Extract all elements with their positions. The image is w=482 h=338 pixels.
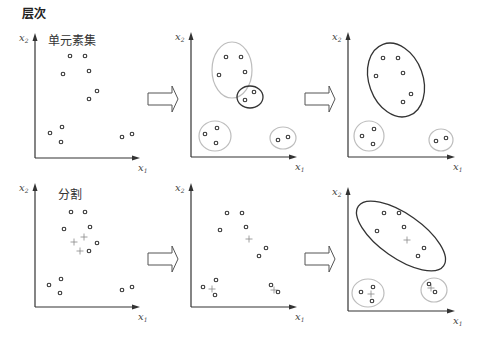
data-point	[252, 90, 256, 94]
y-axis-label: x2	[175, 182, 185, 194]
x-axis-arrow-icon	[132, 156, 140, 161]
scatter-panel: x2x1	[332, 31, 462, 173]
data-point	[401, 100, 405, 104]
y-axis-label-sub: 2	[337, 191, 342, 198]
data-point	[427, 282, 431, 286]
data-point	[61, 72, 65, 76]
data-point	[240, 211, 244, 215]
centroid-plus-icon	[81, 234, 88, 241]
data-point	[434, 139, 438, 143]
block-arrow-icon	[148, 86, 178, 112]
x-axis-label-sub: 1	[144, 167, 148, 174]
diagram-title: 层次	[22, 6, 46, 21]
data-point	[276, 138, 280, 142]
data-point	[88, 225, 92, 229]
y-axis-arrow-icon	[189, 32, 194, 40]
data-point	[130, 132, 134, 136]
scatter-panel: x2x1	[19, 182, 147, 323]
cluster-ellipse	[237, 86, 263, 108]
data-point	[444, 136, 448, 140]
data-point	[59, 140, 63, 144]
x-axis-label: x1	[453, 161, 462, 173]
row-label-singleton: 单元素集	[48, 33, 96, 48]
centroid-plus-icon	[71, 239, 78, 246]
data-point	[213, 293, 217, 297]
data-point	[286, 135, 290, 139]
x-axis-arrow-icon	[289, 305, 297, 310]
panels: x2x1x2x1x2x1x2x1x2x1x2x1	[19, 31, 462, 327]
data-point	[381, 56, 385, 60]
data-point	[433, 290, 437, 294]
y-axis-label-sub: 2	[24, 187, 29, 194]
row-label-partition: 分割	[58, 187, 82, 202]
y-axis-arrow-icon	[189, 183, 194, 191]
clustering-diagram: 层次 单元素集 分割 x2x1x2x1x2x1x2x1x2x1x2x1	[0, 0, 482, 338]
data-point	[257, 254, 261, 258]
data-point	[62, 227, 66, 231]
block-arrow-icon	[305, 86, 335, 112]
data-point	[243, 70, 247, 74]
y-axis-label: x2	[332, 31, 342, 43]
x-axis-label: x1	[138, 162, 147, 174]
data-point	[409, 92, 413, 96]
x-axis-arrow-icon	[447, 155, 455, 160]
x-axis-arrow-icon	[132, 305, 140, 310]
data-point	[60, 125, 64, 129]
data-point	[359, 290, 363, 294]
data-point	[48, 131, 52, 135]
data-point	[83, 54, 87, 58]
y-axis-label: x2	[175, 31, 185, 43]
x-axis-label: x1	[453, 315, 462, 327]
centroid-plus-icon	[368, 291, 375, 298]
data-point	[401, 71, 405, 75]
scatter-panel: x2x1	[332, 186, 462, 327]
y-axis-label-sub: 2	[24, 37, 29, 44]
data-point	[68, 54, 72, 58]
data-point	[276, 290, 280, 294]
x-axis-label-sub: 1	[301, 166, 305, 173]
cluster-ellipse	[352, 279, 384, 307]
data-point	[269, 283, 273, 287]
scatter-panel: x2x1	[175, 31, 304, 173]
data-point	[243, 98, 247, 102]
data-point	[87, 97, 91, 101]
data-point	[130, 285, 134, 289]
centroid-plus-icon	[246, 236, 253, 243]
y-axis-label-sub: 2	[337, 36, 342, 43]
x-axis-label: x1	[295, 161, 304, 173]
data-point	[396, 56, 400, 60]
data-point	[95, 89, 99, 93]
data-point	[201, 285, 205, 289]
data-point	[215, 126, 219, 130]
data-point	[83, 210, 87, 214]
cluster-ellipse	[346, 188, 456, 284]
y-axis-label-sub: 2	[180, 36, 185, 43]
cluster-ellipse	[270, 127, 296, 149]
cluster-ellipse	[429, 129, 453, 151]
data-point	[47, 283, 51, 287]
x-axis-label-sub: 1	[459, 166, 463, 173]
cluster-ellipse	[354, 121, 384, 151]
data-point	[69, 210, 73, 214]
data-point	[397, 211, 401, 215]
data-point	[416, 254, 420, 258]
data-point	[203, 132, 207, 136]
y-axis-arrow-icon	[346, 32, 351, 40]
y-axis-label: x2	[19, 32, 29, 44]
data-point	[224, 55, 228, 59]
data-point	[402, 225, 406, 229]
data-point	[372, 127, 376, 131]
data-point	[120, 135, 124, 139]
x-axis-label-sub: 1	[301, 316, 305, 323]
x-axis-arrow-icon	[289, 155, 297, 160]
transition-arrows	[148, 86, 335, 272]
x-axis-label-sub: 1	[459, 320, 463, 327]
data-point	[214, 141, 218, 145]
x-axis-label: x1	[138, 311, 147, 323]
data-point	[225, 211, 229, 215]
centroid-plus-icon	[404, 237, 411, 244]
y-axis-label: x2	[332, 186, 342, 198]
data-point	[382, 211, 386, 215]
y-axis-label-sub: 2	[180, 187, 185, 194]
x-axis-label: x1	[295, 311, 304, 323]
